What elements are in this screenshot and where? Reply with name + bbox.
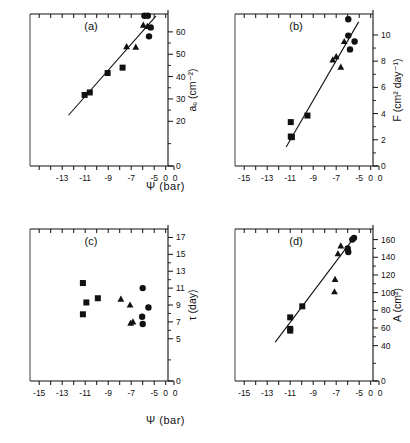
- y-tick-label: 6: [381, 82, 386, 92]
- y-tick-label: 140: [381, 252, 395, 262]
- y-axis-label: aₑ (cm⁻²): [186, 68, 198, 111]
- y-tick-label: 13: [176, 266, 186, 276]
- data-point-circle: [140, 285, 146, 291]
- data-point-triangle: [337, 63, 344, 69]
- x-tick-label: -7: [127, 388, 135, 398]
- data-point-circle: [145, 304, 151, 310]
- data-point-triangle: [332, 276, 339, 282]
- x-tick-label: -11: [79, 388, 91, 398]
- x-tick-label: -5: [355, 388, 363, 398]
- y-tick-label: 60: [176, 27, 186, 37]
- x-tick-label: -7: [332, 388, 340, 398]
- x-tick-label: 0: [163, 388, 168, 398]
- panel-a-plot: -13-11-9-7-50002030405060(a)aₑ (cm⁻²): [0, 0, 205, 200]
- data-point-square: [289, 134, 295, 140]
- y-axis-label: A (cm²): [391, 288, 403, 322]
- data-point-square: [120, 65, 126, 71]
- x-tick-label-zero: 0: [173, 388, 178, 398]
- y-tick-label: 40: [381, 341, 391, 351]
- panel-title: (c): [85, 235, 98, 247]
- y-tick-label: 50: [176, 49, 186, 59]
- axes-group: -15-13-11-9-7-5000246810(b)F (cm² day⁻¹): [235, 10, 403, 183]
- x-axis-label-top: Ψ (bar): [146, 180, 185, 192]
- data-point-triangle: [132, 43, 139, 49]
- data-point-circle: [146, 33, 152, 39]
- data-points-group: [80, 280, 152, 327]
- x-tick-label: -5: [355, 173, 363, 183]
- x-tick-label: -9: [309, 173, 317, 183]
- data-point-square: [287, 328, 293, 334]
- y-tick-label: 15: [176, 249, 186, 259]
- axes-group: -15-13-11-9-7-500057911131517(c)τ (day): [30, 225, 198, 398]
- panel-title: (d): [289, 235, 302, 247]
- data-point-circle: [345, 245, 351, 251]
- x-tick-label: -13: [261, 388, 274, 398]
- x-tick-label: -9: [104, 388, 112, 398]
- y-tick-label: 9: [176, 300, 181, 310]
- panel-title: (a): [84, 20, 97, 32]
- data-point-square: [105, 70, 111, 76]
- data-point-circle: [347, 46, 353, 52]
- y-tick-label: 10: [381, 30, 391, 40]
- data-point-square: [82, 92, 88, 98]
- x-tick-label: -11: [79, 173, 91, 183]
- y-tick-label: 60: [381, 323, 391, 333]
- data-point-circle: [145, 13, 151, 19]
- y-tick-label: 80: [381, 305, 391, 315]
- x-axis-label-bottom: Ψ (bar): [146, 414, 185, 426]
- x-tick-label: -11: [284, 173, 296, 183]
- x-tick-label: -7: [332, 173, 340, 183]
- panel-c-plot: -15-13-11-9-7-500057911131517(c)τ (day): [0, 215, 205, 415]
- data-point-square: [80, 311, 86, 317]
- data-point-triangle: [337, 242, 344, 248]
- data-point-triangle: [341, 38, 348, 44]
- y-tick-label: 160: [381, 235, 395, 245]
- y-tick-label: 11: [176, 283, 185, 293]
- y-tick-label: 120: [381, 270, 395, 280]
- axes-group: -15-13-11-9-7-5000406080100120140160(d)A…: [235, 225, 403, 398]
- x-tick-label: -13: [261, 173, 274, 183]
- data-point-square: [299, 303, 305, 309]
- y-axis-label: F (cm² day⁻¹): [391, 58, 403, 121]
- x-tick-label: 0: [368, 388, 373, 398]
- y-tick-label: 7: [176, 317, 181, 327]
- y-tick-label: 5: [176, 334, 181, 344]
- x-tick-label: -13: [56, 388, 69, 398]
- x-tick-label-zero: 0: [378, 388, 383, 398]
- panel-title: (b): [289, 20, 302, 32]
- data-point-square: [95, 295, 101, 301]
- panel-b: -15-13-11-9-7-5000246810(b)F (cm² day⁻¹): [205, 0, 410, 200]
- data-point-circle: [140, 321, 146, 327]
- x-tick-label: -11: [284, 388, 296, 398]
- data-point-circle: [351, 235, 357, 241]
- y-tick-label: 20: [176, 116, 186, 126]
- data-point-circle: [351, 38, 357, 44]
- axes-group: -13-11-9-7-50002030405060(a)aₑ (cm⁻²): [30, 10, 198, 183]
- x-tick-label: -9: [104, 173, 112, 183]
- data-point-square: [87, 89, 93, 95]
- data-point-triangle: [117, 295, 124, 301]
- data-points-group: [288, 16, 358, 140]
- regression-line: [286, 22, 358, 147]
- data-point-circle: [345, 32, 351, 38]
- x-tick-label: -15: [33, 388, 46, 398]
- data-point-square: [83, 299, 89, 305]
- figure-panel-grid: -13-11-9-7-50002030405060(a)aₑ (cm⁻²) -1…: [0, 0, 410, 443]
- y-tick-label: 2: [381, 135, 386, 145]
- x-tick-label: -15: [238, 388, 251, 398]
- y-tick-label: 0: [176, 161, 181, 171]
- panel-c: -15-13-11-9-7-500057911131517(c)τ (day): [0, 215, 205, 415]
- data-point-triangle: [127, 301, 134, 307]
- y-tick-label: 30: [176, 94, 186, 104]
- panel-a: -13-11-9-7-50002030405060(a)aₑ (cm⁻²): [0, 0, 205, 200]
- x-tick-label: -15: [238, 173, 251, 183]
- y-tick-label: 4: [381, 109, 386, 119]
- panel-d-plot: -15-13-11-9-7-5000406080100120140160(d)A…: [205, 215, 410, 415]
- data-point-square: [304, 113, 310, 119]
- data-point-circle: [139, 314, 145, 320]
- data-point-square: [80, 280, 86, 286]
- x-tick-label: -5: [150, 388, 158, 398]
- x-tick-label: -9: [309, 388, 317, 398]
- panel-d: -15-13-11-9-7-5000406080100120140160(d)A…: [205, 215, 410, 415]
- data-point-triangle: [335, 250, 342, 256]
